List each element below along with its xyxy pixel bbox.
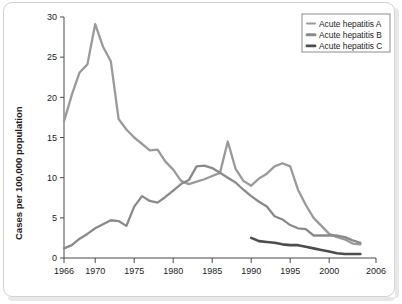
x-tick-label: 1990	[241, 266, 261, 276]
y-tick-label: 15	[47, 133, 57, 143]
x-tick-label: 2006	[366, 266, 386, 276]
y-tick-label: 0	[52, 253, 57, 263]
legend-item-label[interactable]: Acute hepatitis A	[319, 19, 382, 29]
y-tick-label: 30	[47, 12, 57, 22]
legend-item-label[interactable]: Acute hepatitis B	[319, 30, 382, 40]
x-tick-label: 2000	[319, 266, 339, 276]
x-tick-label: 1980	[163, 266, 183, 276]
series-line-acute-hepatitis-a	[64, 24, 360, 244]
y-tick-label: 20	[47, 93, 57, 103]
chart-legend: Acute hepatitis AAcute hepatitis BAcute …	[302, 14, 390, 52]
x-tick-label: 1985	[202, 266, 222, 276]
y-axis-label-text: Cases per 100,000 population	[13, 106, 24, 240]
x-axis-ticks: 196619701975198019851990199520002006	[54, 258, 386, 276]
x-tick-label: 1995	[280, 266, 300, 276]
y-axis-label: Cases per 100,000 population	[13, 106, 24, 240]
chart-figure: Cases per 100,000 population 05101520253…	[0, 0, 402, 304]
series-line-acute-hepatitis-b	[64, 166, 360, 249]
x-tick-label: 1970	[85, 266, 105, 276]
y-tick-label: 10	[47, 173, 57, 183]
y-tick-label: 25	[47, 52, 57, 62]
x-tick-label: 1966	[54, 266, 74, 276]
line-chart-plot: Cases per 100,000 population 05101520253…	[0, 0, 402, 304]
legend-item-label[interactable]: Acute hepatitis C	[319, 41, 382, 51]
y-axis-ticks: 051015202530	[47, 12, 64, 263]
data-series-group	[64, 24, 360, 254]
y-tick-label: 5	[52, 213, 57, 223]
x-tick-label: 1975	[124, 266, 144, 276]
